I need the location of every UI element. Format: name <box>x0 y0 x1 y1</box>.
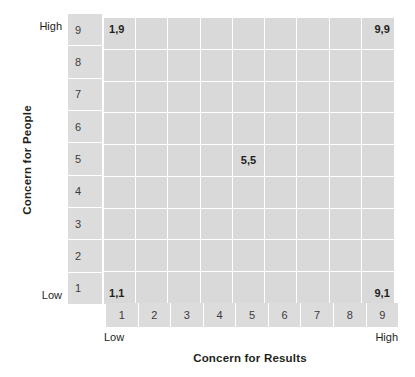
y-tick: 5 <box>68 143 102 175</box>
grid-cell: 5,5 <box>233 145 265 177</box>
y-axis-tick-strip: 9 8 7 6 5 4 3 2 1 <box>68 14 102 304</box>
grid-cell <box>201 272 233 304</box>
y-tick: 8 <box>68 46 102 78</box>
grid-cell <box>168 177 200 209</box>
x-tick: 8 <box>334 303 367 327</box>
grid-cell <box>330 18 362 50</box>
y-tick: 6 <box>68 111 102 143</box>
grid-cell <box>136 18 168 50</box>
cell-label-1-9: 1,9 <box>109 23 125 35</box>
x-tick: 7 <box>301 303 334 327</box>
grid-cell <box>168 50 200 82</box>
grid-cell <box>362 145 394 177</box>
grid-cell <box>168 82 200 114</box>
x-tick: 4 <box>204 303 237 327</box>
grid-cell <box>233 240 265 272</box>
grid-cell <box>168 272 200 304</box>
grid-cell <box>136 113 168 145</box>
y-tick: 2 <box>68 240 102 272</box>
y-axis-low-label: Low <box>14 289 62 301</box>
grid-cell <box>233 177 265 209</box>
x-axis-title: Concern for Results <box>105 352 395 364</box>
grid-cell <box>233 50 265 82</box>
grid-cell <box>136 240 168 272</box>
cell-label-1-1: 1,1 <box>109 287 125 299</box>
grid-cell <box>104 50 136 82</box>
grid-cell <box>265 177 297 209</box>
grid-cell <box>362 240 394 272</box>
grid-cell <box>136 177 168 209</box>
x-tick: 3 <box>171 303 204 327</box>
grid-cell <box>201 145 233 177</box>
grid-cell <box>136 272 168 304</box>
cell-label-9-9: 9,9 <box>374 23 390 35</box>
grid-cell <box>330 50 362 82</box>
x-tick: 1 <box>106 303 139 327</box>
grid-cell <box>201 113 233 145</box>
grid-cell <box>265 50 297 82</box>
grid-cell <box>201 82 233 114</box>
grid-cell <box>168 209 200 241</box>
grid-cell <box>168 113 200 145</box>
x-axis-tick-strip: 1 2 3 4 5 6 7 8 9 <box>106 303 398 327</box>
grid-cell <box>104 177 136 209</box>
grid-cell <box>362 209 394 241</box>
grid-cell <box>168 18 200 50</box>
grid-cell <box>330 177 362 209</box>
grid-cell: 1,9 <box>104 18 136 50</box>
grid-cell <box>265 145 297 177</box>
grid-cell <box>233 272 265 304</box>
y-axis-title: Concern for People <box>21 70 33 250</box>
grid-cell <box>104 209 136 241</box>
grid-cell <box>330 145 362 177</box>
grid-cell <box>297 50 329 82</box>
grid-cell <box>104 82 136 114</box>
grid-cell <box>297 272 329 304</box>
x-tick: 6 <box>269 303 302 327</box>
grid-cell: 1,1 <box>104 272 136 304</box>
grid-cell <box>330 82 362 114</box>
grid-cell <box>265 240 297 272</box>
grid-cell <box>265 209 297 241</box>
x-tick: 2 <box>139 303 172 327</box>
cell-label-5-5: 5,5 <box>241 154 257 166</box>
grid-cell <box>330 209 362 241</box>
y-tick: 1 <box>68 273 102 304</box>
cell-label-9-1: 9,1 <box>374 287 390 299</box>
grid-cell <box>201 240 233 272</box>
grid-cell <box>136 209 168 241</box>
managerial-grid: 1,9 9,9 5,5 <box>104 18 394 304</box>
grid-cell <box>265 272 297 304</box>
grid-cell <box>136 145 168 177</box>
grid-cell <box>136 82 168 114</box>
grid-cell <box>265 18 297 50</box>
y-axis-high-label: High <box>14 20 62 32</box>
x-axis-high-label: High <box>0 331 398 343</box>
grid-cell <box>201 177 233 209</box>
grid-cell <box>201 18 233 50</box>
grid-cell <box>201 209 233 241</box>
grid-cell <box>362 50 394 82</box>
grid-cell <box>233 82 265 114</box>
grid-cell <box>362 82 394 114</box>
x-tick: 5 <box>236 303 269 327</box>
grid-cell <box>362 177 394 209</box>
grid-cell <box>297 209 329 241</box>
grid-cell: 9,1 <box>362 272 394 304</box>
grid-cell <box>297 145 329 177</box>
grid-cell <box>233 113 265 145</box>
grid-cell <box>201 50 233 82</box>
grid-cell <box>265 82 297 114</box>
grid-cell <box>104 240 136 272</box>
grid-cell <box>330 272 362 304</box>
grid-cell: 9,9 <box>362 18 394 50</box>
grid-cell <box>362 113 394 145</box>
x-tick: 9 <box>367 303 399 327</box>
grid-cell <box>330 113 362 145</box>
grid-cell <box>104 113 136 145</box>
grid-cell <box>168 240 200 272</box>
grid-cell <box>297 82 329 114</box>
grid-cell <box>233 209 265 241</box>
grid-cell <box>136 50 168 82</box>
grid-cell <box>168 145 200 177</box>
